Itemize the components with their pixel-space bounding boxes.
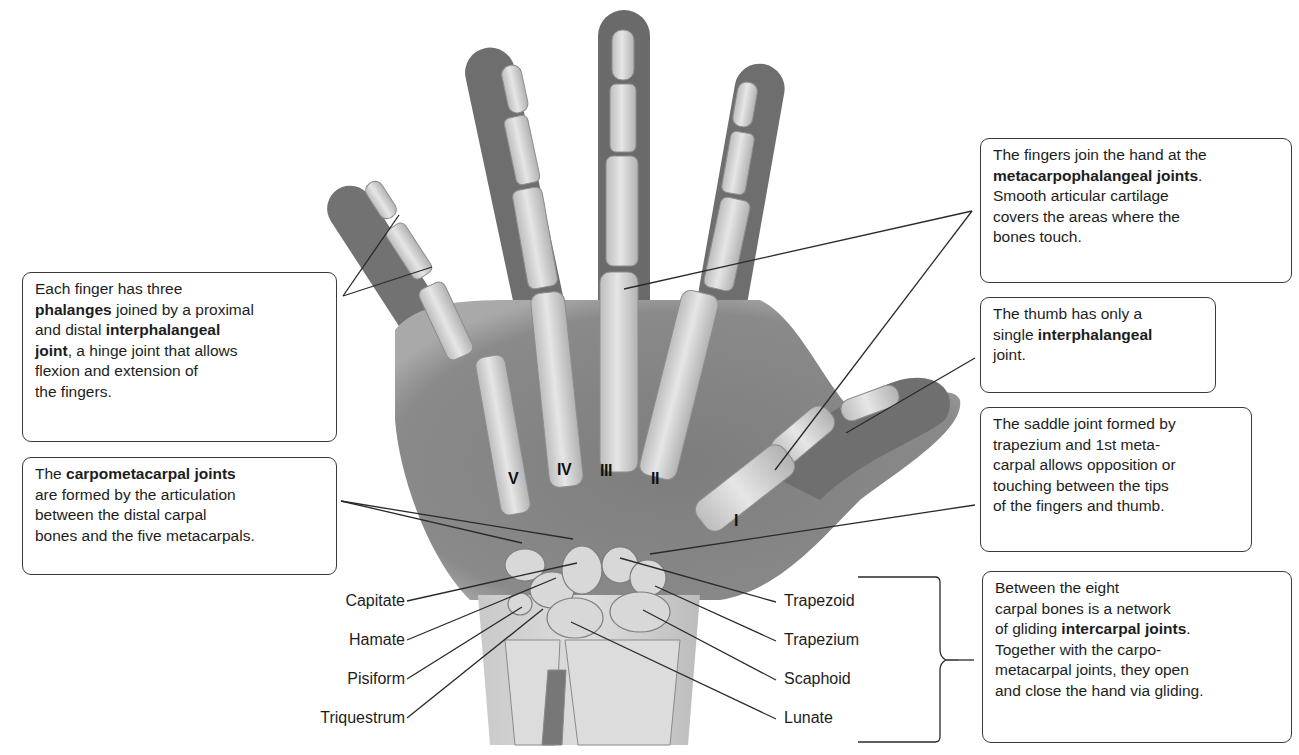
metacarpal-numeral-iv: IV: [557, 461, 571, 479]
callout-line: are formed by the articulation: [35, 485, 326, 506]
hand-silhouette: [318, 10, 960, 745]
metacarpal-numeral-i: I: [734, 512, 738, 530]
callout-line: carpal bones is a network: [995, 599, 1281, 620]
callout-intercarpal: Between the eight carpal bones is a netw…: [982, 571, 1292, 743]
callout-line: the fingers.: [35, 382, 326, 403]
hand-joints-figure: Each finger has three phalanges joined b…: [0, 0, 1299, 755]
callout-line: and close the hand via gliding.: [995, 681, 1281, 702]
callout-line: The carpometacarpal joints: [35, 464, 326, 485]
callout-line: single interphalangeal: [993, 325, 1205, 346]
callout-line: The thumb has only a: [993, 304, 1205, 325]
label-trapezium: Trapezium: [784, 631, 859, 649]
label-hamate: Hamate: [349, 631, 405, 649]
callout-line: carpal allows opposition or: [993, 455, 1241, 476]
callout-line: of the fingers and thumb.: [993, 496, 1241, 517]
callout-saddle-joint: The saddle joint formed by trapezium and…: [980, 407, 1252, 552]
label-trapezoid: Trapezoid: [784, 592, 855, 610]
callout-line: metacarpal joints, they open: [995, 660, 1281, 681]
callout-line: bones and the five metacarpals.: [35, 526, 326, 547]
callout-line: The saddle joint formed by: [993, 414, 1241, 435]
callout-line: metacarpophalangeal joints.: [993, 166, 1281, 187]
metacarpal-numeral-v: V: [508, 470, 518, 488]
metacarpal-numeral-ii: II: [651, 470, 659, 488]
callout-line: Between the eight: [995, 578, 1281, 599]
label-capitate: Capitate: [345, 592, 405, 610]
callout-thumb-interphalangeal: The thumb has only a single interphalang…: [980, 297, 1216, 393]
callout-line: trapezium and 1st meta-: [993, 435, 1241, 456]
forearm-bones: [505, 640, 680, 745]
callout-line: flexion and extension of: [35, 361, 326, 382]
callout-line: bones touch.: [993, 227, 1281, 248]
callout-line: Each finger has three: [35, 279, 326, 300]
metacarpal-numeral-iii: III: [600, 462, 612, 480]
callout-phalanges: Each finger has three phalanges joined b…: [22, 272, 337, 442]
label-triquestrum: Triquestrum: [320, 709, 405, 727]
callout-line: Together with the carpo-: [995, 640, 1281, 661]
callout-line: Smooth articular cartilage: [993, 186, 1281, 207]
callout-line: joint, a hinge joint that allows: [35, 341, 326, 362]
callout-metacarpophalangeal: The fingers join the hand at the metacar…: [980, 138, 1292, 283]
callout-carpometacarpal: The carpometacarpal joints are formed by…: [22, 457, 337, 575]
label-scaphoid: Scaphoid: [784, 670, 851, 688]
callout-line: The fingers join the hand at the: [993, 145, 1281, 166]
callout-line: phalanges joined by a proximal: [35, 300, 326, 321]
callout-line: covers the areas where the: [993, 207, 1281, 228]
callout-line: between the distal carpal: [35, 505, 326, 526]
callout-line: of gliding intercarpal joints.: [995, 619, 1281, 640]
callout-line: and distal interphalangeal: [35, 320, 326, 341]
callout-line: joint.: [993, 345, 1205, 366]
callout-line: touching between the tips: [993, 476, 1241, 497]
label-pisiform: Pisiform: [347, 670, 405, 688]
label-lunate: Lunate: [784, 709, 833, 727]
